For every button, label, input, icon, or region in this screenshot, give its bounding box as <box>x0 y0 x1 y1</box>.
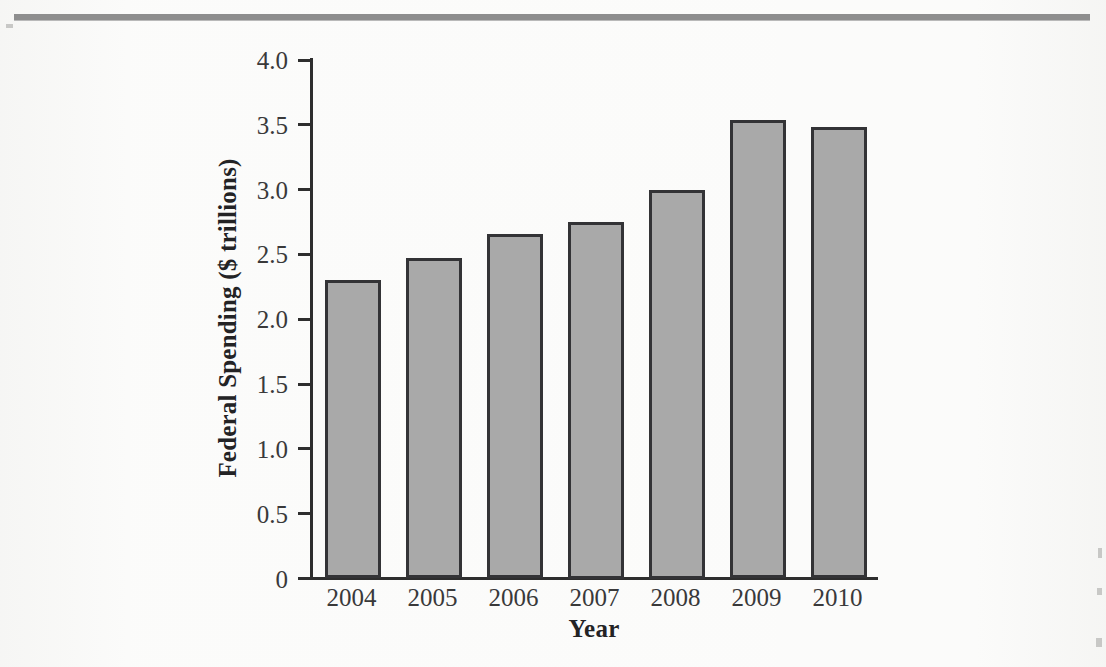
y-axis-tick-label: 4.0 <box>226 48 288 73</box>
x-axis-tick-label-2006: 2006 <box>471 584 557 612</box>
bar-2008 <box>649 190 705 579</box>
bar-2004 <box>325 280 381 578</box>
x-axis-title: Year <box>310 615 878 643</box>
scan-artifact-right-lower <box>1096 638 1102 647</box>
bar-2007 <box>568 222 624 578</box>
y-axis-tick-label: 3.5 <box>226 113 288 138</box>
scan-artifact-right-upper <box>1098 548 1102 558</box>
bar-2010 <box>811 127 867 578</box>
y-axis-tick <box>298 253 312 256</box>
figure-page: 4.03.53.02.52.01.51.00.50 20042005200620… <box>0 0 1106 667</box>
y-axis-tick-label: 0.5 <box>226 502 288 527</box>
y-axis-tick <box>298 59 312 62</box>
x-axis-tick-label-2008: 2008 <box>633 584 719 612</box>
x-axis-tick-label-2009: 2009 <box>714 584 800 612</box>
scan-artifact-right-mid <box>1097 588 1102 595</box>
y-axis-tick <box>298 383 312 386</box>
y-axis-tick <box>298 577 312 580</box>
y-axis-tick <box>298 188 312 191</box>
bar-2006 <box>487 234 543 579</box>
x-axis-tick-label-2004: 2004 <box>309 584 395 612</box>
bar-2005 <box>406 258 462 578</box>
y-axis-tick-label: 0 <box>226 567 288 592</box>
bar-chart: 4.03.53.02.52.01.51.00.50 20042005200620… <box>0 0 1106 667</box>
x-axis-tick-label-2007: 2007 <box>552 584 638 612</box>
scan-artifact-left-top <box>6 24 13 28</box>
y-axis-tick <box>298 447 312 450</box>
y-axis-tick <box>298 512 312 515</box>
x-axis-tick-label-2010: 2010 <box>795 584 881 612</box>
y-axis-tick <box>298 318 312 321</box>
x-axis-tick-label-2005: 2005 <box>390 584 476 612</box>
y-axis-tick <box>298 123 312 126</box>
bar-2009 <box>730 120 786 579</box>
y-axis-title: Federal Spending ($ trillions) <box>214 158 242 477</box>
